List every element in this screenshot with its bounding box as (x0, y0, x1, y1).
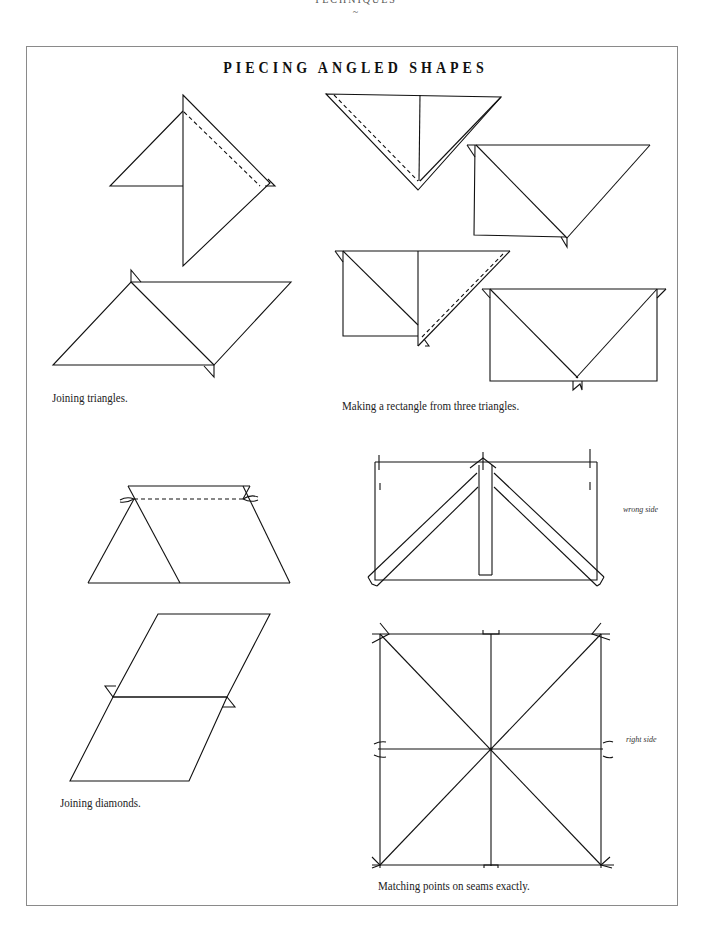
caption-joining-diamonds: Joining diamonds. (60, 796, 141, 811)
matching-points-right-side (372, 623, 614, 868)
rectangle-step-4 (482, 289, 666, 390)
joining-triangles-step-2 (53, 270, 291, 377)
caption-matching-points: Matching points on seams exactly. (378, 879, 530, 894)
joining-triangles-step-1 (110, 95, 275, 266)
joining-diamonds (70, 614, 270, 781)
caption-joining-triangles: Joining triangles. (52, 391, 128, 406)
rectangle-step-2 (467, 145, 650, 247)
rectangle-step-3 (335, 251, 510, 346)
label-wrong-side: wrong side (623, 505, 658, 514)
joining-triangles-trapezoid (88, 486, 290, 583)
label-right-side: right side (626, 735, 656, 744)
matching-points-wrong-side (368, 449, 604, 586)
caption-rectangle: Making a rectangle from three triangles. (342, 399, 519, 414)
